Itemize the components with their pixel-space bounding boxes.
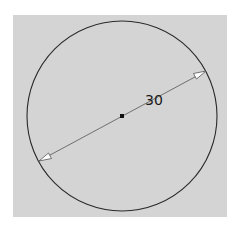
arrowhead-left-icon — [39, 153, 52, 161]
arrowhead-right-icon — [194, 71, 207, 79]
sketch-svg: 30 — [0, 0, 239, 228]
dimension-value[interactable]: 30 — [145, 92, 163, 108]
center-point-icon[interactable] — [120, 114, 124, 118]
